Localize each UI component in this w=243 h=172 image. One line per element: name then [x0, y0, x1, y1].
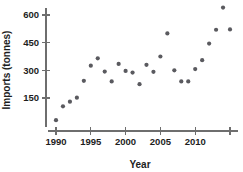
x-tick-label: 2000 — [115, 136, 136, 147]
x-tick-label: 1995 — [80, 136, 102, 147]
y-axis-title: Imports (tonnes) — [1, 31, 12, 110]
y-tick-label: 600 — [23, 9, 39, 20]
y-tick-label: 450 — [23, 37, 39, 48]
data-point — [158, 54, 162, 58]
data-point — [54, 118, 58, 122]
data-point — [68, 100, 72, 104]
data-point — [200, 58, 204, 62]
chart-canvas: 150300450600 19901995200020052010 Year I… — [0, 0, 243, 172]
y-tick-label: 150 — [23, 92, 39, 103]
data-point — [186, 79, 190, 83]
data-point — [130, 70, 134, 74]
data-point — [144, 63, 148, 67]
data-point — [207, 41, 211, 45]
data-point — [193, 67, 197, 71]
y-tick-label: 300 — [23, 65, 39, 76]
data-point — [61, 104, 65, 108]
x-tick-label: 2005 — [150, 136, 172, 147]
x-axis-title: Year — [129, 159, 150, 170]
data-points-layer — [54, 6, 232, 123]
data-point — [165, 31, 169, 35]
data-point — [172, 68, 176, 72]
data-point — [82, 79, 86, 83]
data-point — [89, 64, 93, 68]
y-axis: 150300450600 — [23, 8, 50, 127]
data-point — [75, 96, 79, 100]
data-point — [96, 56, 100, 60]
data-point — [110, 79, 114, 83]
scatter-chart: 150300450600 19901995200020052010 Year I… — [0, 0, 243, 172]
data-point — [179, 79, 183, 83]
x-tick-label: 1990 — [45, 136, 66, 147]
data-point — [117, 62, 121, 66]
data-point — [228, 27, 232, 31]
x-tick-label: 2010 — [185, 136, 206, 147]
data-point — [124, 69, 128, 73]
data-point — [214, 28, 218, 32]
data-point — [221, 6, 225, 10]
data-point — [103, 70, 107, 74]
data-point — [137, 82, 141, 86]
x-axis: 19901995200020052010 — [45, 127, 238, 147]
data-point — [151, 70, 155, 74]
